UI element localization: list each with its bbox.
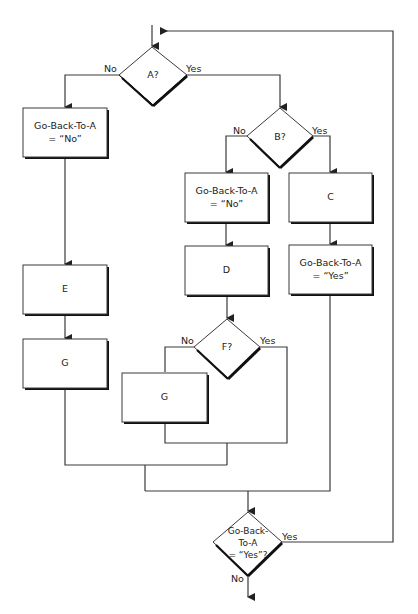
a-no-connector (65, 75, 119, 107)
b-yes-connector (313, 136, 330, 172)
process-box-e: E (23, 265, 107, 314)
a-yes-connector (187, 75, 280, 107)
decision-diamonds (119, 47, 313, 576)
process-box-mid-goback-no: Go-Back-To-A = “No” (185, 173, 268, 222)
decision-b-no-label: No (233, 126, 246, 136)
process-box-d: D (185, 246, 268, 295)
box-line-1: Go-Back-To-A (300, 257, 362, 270)
decision-a-label: A? (132, 66, 174, 84)
process-box-g-mid: G (122, 373, 207, 422)
decision-b-yes-label: Yes (312, 126, 327, 136)
decision-line-1: Go-Back- (228, 526, 269, 538)
decision-a-yes-label: Yes (186, 64, 201, 74)
box-label: C (327, 191, 334, 204)
decision-f-no-label: No (181, 336, 194, 346)
process-box-g-left: G (23, 339, 107, 388)
box-line-1: Go-Back-To-A (196, 185, 258, 198)
decision-f-label: F? (206, 338, 248, 356)
decision-f-yes-label: Yes (260, 336, 275, 346)
decision-a-no-label: No (104, 64, 117, 74)
decision-goback-label: Go-Back- To-A = “Yes”? (218, 525, 278, 563)
f-no-connector (165, 347, 194, 372)
decision-line-2: To-A (239, 538, 258, 550)
process-box-left-goback-no: Go-Back-To-A = “No” (23, 108, 107, 157)
process-box-right-goback-yes: Go-Back-To-A = “Yes” (289, 245, 372, 294)
decision-b-label: B? (259, 128, 301, 146)
box-line-2: = “No” (48, 133, 81, 146)
box-label: G (161, 391, 168, 404)
box-label: D (223, 264, 230, 277)
decision-line-3: = “Yes”? (228, 550, 267, 562)
box-label: E (62, 283, 68, 296)
box-line-2: = “No” (210, 198, 243, 211)
decision-goback-no-label: No (231, 574, 244, 584)
flowchart-canvas: A? No Yes Go-Back-To-A = “No” E G B? No … (0, 0, 418, 614)
box-line-1: Go-Back-To-A (34, 120, 96, 133)
b-no-connector (226, 136, 247, 172)
process-box-c: C (289, 173, 372, 222)
decision-goback-yes-label: Yes (282, 532, 297, 542)
box-label: G (61, 357, 68, 370)
box-line-2: = “Yes” (312, 270, 348, 283)
